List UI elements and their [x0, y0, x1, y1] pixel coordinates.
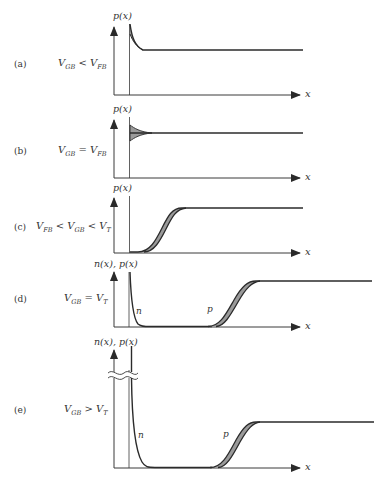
y-axis-label-a: p(x)	[113, 10, 132, 21]
panel-d-plot	[114, 272, 372, 327]
panel-a-plot	[114, 24, 303, 95]
x-axis-label-c: x	[305, 246, 311, 257]
cond-op: >	[84, 403, 92, 414]
cond-op: <	[56, 220, 64, 231]
cond-op: =	[78, 144, 86, 155]
condition-label-a: VGB < VFB	[58, 57, 107, 71]
cond-rhs-sub: FB	[97, 150, 106, 158]
cond-lhs-sub: FB	[43, 226, 52, 234]
panel-label-c: (c)	[14, 222, 26, 232]
panel-label-b: (b)	[14, 146, 27, 156]
panel-label-a: (a)	[14, 59, 26, 69]
shaded-band	[130, 208, 186, 252]
cond-lhs-sub: GB	[65, 150, 75, 158]
hole-concentration-curve	[130, 24, 303, 50]
cond-rhs-sub: T	[107, 226, 111, 234]
cond-lhs-sub: GB	[71, 298, 81, 306]
cond-rhs-sub: FB	[97, 63, 106, 71]
curve-tag-p-e: p	[223, 429, 229, 439]
hole-concentration-curve-lower	[144, 208, 186, 252]
panel-label-d: (d)	[14, 294, 27, 304]
x-axis-label-a: x	[305, 88, 311, 99]
shaded-band	[130, 24, 143, 50]
electron-concentration-curve	[130, 272, 212, 327]
panel-b-plot	[114, 117, 303, 178]
cond-rhs-sub: T	[103, 298, 107, 306]
panel-e-plot	[108, 346, 374, 468]
cond-mid-sub: GB	[75, 226, 85, 234]
cond-lhs-sub: GB	[71, 409, 81, 417]
electron-concentration-curve	[132, 378, 213, 468]
figure-canvas	[0, 0, 383, 481]
cond-op: <	[78, 57, 86, 68]
x-axis-label-b: x	[305, 171, 311, 182]
x-axis-label-d: x	[305, 320, 311, 331]
x-axis-label-e: x	[305, 461, 311, 472]
cond-op2: <	[88, 220, 96, 231]
condition-label-d: VGB = VT	[64, 292, 108, 306]
cond-mid: V	[67, 220, 74, 231]
condition-label-c: VFB < VGB < VT	[36, 220, 111, 234]
y-axis-label-b: p(x)	[113, 103, 132, 114]
shaded-band	[210, 422, 260, 468]
y-axis-label-c: p(x)	[113, 182, 132, 193]
curve-tag-p-d: p	[207, 304, 213, 314]
panel-c-plot	[114, 196, 303, 253]
y-axis-label-e: n(x), p(x)	[94, 336, 138, 347]
y-axis-label-d: n(x), p(x)	[94, 258, 138, 269]
curve-tag-n-d: n	[136, 306, 142, 316]
condition-label-e: VGB > VT	[64, 403, 108, 417]
hole-concentration-curve	[208, 281, 372, 327]
shaded-band	[208, 281, 260, 327]
cond-rhs-sub: T	[103, 409, 107, 417]
curve-tag-n-e: n	[138, 430, 144, 440]
cond-op: =	[84, 292, 92, 303]
cond-rhs: V	[99, 220, 106, 231]
condition-label-b: VGB = VFB	[58, 144, 107, 158]
panel-label-e: (e)	[14, 405, 26, 415]
cond-lhs-sub: GB	[65, 63, 75, 71]
